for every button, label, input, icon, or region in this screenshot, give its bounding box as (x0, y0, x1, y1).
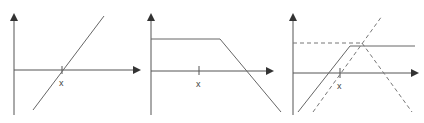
x-label: x (59, 78, 64, 88)
panel-2: x (151, 17, 281, 115)
x-label: x (337, 81, 342, 91)
x-label: x (196, 79, 201, 89)
payoff-line (151, 39, 281, 112)
payoff-line (298, 46, 415, 112)
panel-3: x (293, 16, 415, 115)
dashed-falling-line (362, 43, 412, 112)
dashed-rising-line (313, 16, 382, 112)
payoff-diagrams: x x x (0, 0, 424, 123)
payoff-line (33, 16, 104, 110)
panel-1: x (14, 16, 137, 115)
